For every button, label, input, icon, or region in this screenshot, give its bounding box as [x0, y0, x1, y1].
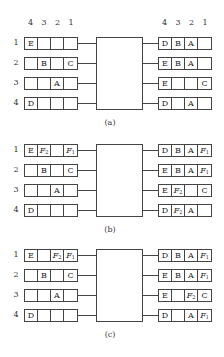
register-cell	[51, 270, 64, 281]
register-cell: F1	[198, 165, 211, 176]
register-cell	[38, 205, 51, 216]
register-cell: A	[51, 185, 64, 196]
register-cell: F1	[198, 310, 211, 321]
input-register: E	[24, 37, 78, 50]
register-cell: D	[25, 310, 38, 321]
register-cell	[185, 78, 198, 89]
register-cell: D	[159, 38, 172, 49]
register-cell: C	[198, 185, 211, 196]
output-column-header: 1	[199, 18, 212, 28]
register-cell	[25, 58, 38, 69]
switch-fabric-box	[96, 37, 143, 110]
output-register: EF2C	[158, 289, 212, 302]
register-cell: D	[159, 145, 172, 156]
input-register: BC	[24, 164, 78, 177]
input-column-header: 1	[65, 18, 78, 28]
input-wire	[78, 190, 96, 191]
register-cell: C	[64, 58, 77, 69]
register-cell: E	[159, 58, 172, 69]
panel-caption: (b)	[100, 225, 120, 234]
register-cell: A	[51, 290, 64, 301]
register-cell: A	[185, 270, 198, 281]
output-column-header: 2	[185, 18, 198, 28]
input-register: BC	[24, 57, 78, 70]
register-cell	[51, 38, 64, 49]
register-cell	[51, 145, 64, 156]
register-cell	[172, 310, 185, 321]
register-cell: F2	[38, 145, 51, 156]
output-register: DF2A	[158, 204, 212, 217]
register-cell: B	[38, 58, 51, 69]
register-cell: E	[159, 185, 172, 196]
register-cell: D	[25, 98, 38, 109]
register-cell: A	[51, 78, 64, 89]
input-column-header: 4	[24, 18, 37, 28]
input-port-label: 1	[11, 249, 21, 261]
register-cell	[38, 38, 51, 49]
output-wire	[142, 150, 158, 151]
input-wire	[78, 295, 96, 296]
register-cell	[64, 310, 77, 321]
output-column-header: 4	[158, 18, 171, 28]
register-cell	[64, 98, 77, 109]
register-cell	[38, 250, 51, 261]
register-cell: F2	[51, 250, 64, 261]
output-wire	[142, 43, 158, 44]
register-cell: C	[198, 78, 211, 89]
input-port-label: 4	[11, 97, 21, 109]
register-cell: F2	[172, 205, 185, 216]
output-register: EBA	[158, 57, 212, 70]
output-register: EC	[158, 77, 212, 90]
register-cell: A	[185, 145, 198, 156]
register-cell	[198, 205, 211, 216]
input-wire	[78, 170, 96, 171]
input-register: D	[24, 97, 78, 110]
register-cell	[25, 165, 38, 176]
output-wire	[142, 210, 158, 211]
output-register: EBAF1	[158, 164, 212, 177]
register-cell	[51, 165, 64, 176]
register-cell	[25, 185, 38, 196]
register-cell: D	[159, 205, 172, 216]
input-register: A	[24, 289, 78, 302]
input-wire	[78, 315, 96, 316]
input-register: EF2F1	[24, 144, 78, 157]
output-register: EBAF1	[158, 269, 212, 282]
output-wire	[142, 255, 158, 256]
input-register: BC	[24, 269, 78, 282]
register-cell: C	[64, 270, 77, 281]
register-cell: A	[185, 38, 198, 49]
register-cell: A	[185, 165, 198, 176]
panel-caption: (c)	[100, 330, 120, 339]
output-column-header: 3	[172, 18, 185, 28]
register-cell: B	[38, 270, 51, 281]
switch-fabric-box	[96, 249, 143, 322]
register-cell	[25, 290, 38, 301]
register-cell	[51, 98, 64, 109]
input-wire	[78, 275, 96, 276]
input-port-label: 4	[11, 204, 21, 216]
register-cell: E	[159, 270, 172, 281]
output-wire	[142, 83, 158, 84]
register-cell: A	[185, 98, 198, 109]
register-cell	[172, 290, 185, 301]
register-cell	[38, 310, 51, 321]
register-cell: B	[172, 38, 185, 49]
output-wire	[142, 275, 158, 276]
register-cell	[64, 205, 77, 216]
register-cell: B	[38, 165, 51, 176]
register-cell: E	[25, 250, 38, 261]
register-cell: B	[172, 145, 185, 156]
input-port-label: 3	[11, 184, 21, 196]
register-cell	[25, 78, 38, 89]
output-wire	[142, 190, 158, 191]
register-cell: E	[159, 290, 172, 301]
input-wire	[78, 43, 96, 44]
output-wire	[142, 103, 158, 104]
register-cell: D	[159, 310, 172, 321]
input-wire	[78, 150, 96, 151]
input-register: A	[24, 77, 78, 90]
output-wire	[142, 63, 158, 64]
input-port-label: 2	[11, 164, 21, 176]
register-cell: E	[25, 38, 38, 49]
